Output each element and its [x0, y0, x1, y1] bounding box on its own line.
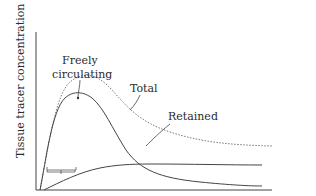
final-layer: [0, 0, 316, 196]
